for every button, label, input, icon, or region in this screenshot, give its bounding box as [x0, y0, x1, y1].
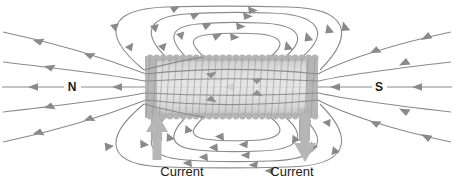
field-line-lower-left-2 [3, 93, 145, 112]
field-line-upper-left-2 [3, 62, 145, 81]
field-loop-top-1 [193, 33, 293, 57]
current-label-right: Current [270, 164, 314, 179]
field-line-upper-right-2 [319, 58, 451, 81]
field-loop-bottom-3 [140, 116, 318, 169]
field-loop-bottom-2 [167, 117, 300, 159]
solenoid-field-diagram: N S Current Current N S [0, 0, 454, 182]
field-line-upper-right-1 [318, 32, 451, 74]
north-pole-label-top: N [68, 80, 77, 94]
diagram-canvas: N S Current Current N S [0, 0, 454, 182]
field-line-lower-left-1 [3, 100, 146, 142]
field-line-upper-left-1 [3, 32, 146, 74]
solenoid-coil [145, 54, 319, 119]
current-arrow-left [146, 113, 168, 160]
current-label-left: Current [160, 164, 204, 179]
south-pole-label-top: S [375, 80, 383, 94]
field-line-lower-right-2 [319, 93, 451, 116]
field-line-lower-right-1 [318, 100, 451, 142]
field-loop-bottom-1 [185, 117, 280, 148]
